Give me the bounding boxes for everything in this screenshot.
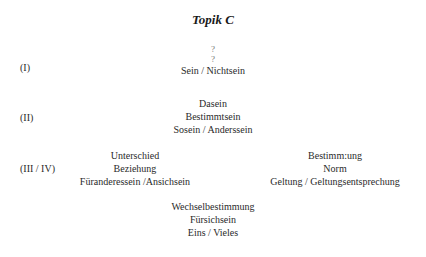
level-3-right-line-2: Norm [250, 162, 420, 175]
level-label-3-4: (III / IV) [20, 163, 55, 175]
level-3-right-block: Bestimm:ung Norm Geltung / Geltungsentsp… [250, 149, 420, 188]
level-4-line-2: Fürsichsein [148, 213, 278, 226]
level-3-right-line-3: Geltung / Geltungsentsprechung [250, 175, 420, 188]
level-3-left-block: Unterschied Beziehung Füranderessein /An… [65, 149, 205, 188]
level-4-line-1: Wechselbestimmung [148, 200, 278, 213]
level-3-left-line-2: Beziehung [65, 162, 205, 175]
level-4-line-3: Eins / Vieles [148, 226, 278, 239]
level-3-right-line-1: Bestimm:ung [250, 149, 420, 162]
level-1-block: ? ? Sein / Nichtsein [163, 44, 263, 77]
level-2-line-1: Dasein [153, 97, 273, 110]
level-1-line-1: ? [163, 44, 263, 54]
level-2-line-3: Sosein / Anderssein [153, 123, 273, 136]
level-4-block: Wechselbestimmung Fürsichsein Eins / Vie… [148, 200, 278, 239]
page-title: Topik C [0, 12, 426, 28]
level-3-left-line-3: Füranderessein /Ansichsein [65, 175, 205, 188]
level-3-left-line-1: Unterschied [65, 149, 205, 162]
level-label-1: (I) [20, 62, 30, 74]
level-label-2: (II) [20, 112, 33, 124]
level-1-line-3: Sein / Nichtsein [163, 64, 263, 77]
level-1-line-2: ? [163, 54, 263, 64]
level-2-block: Dasein Bestimmtsein Sosein / Anderssein [153, 97, 273, 136]
level-2-line-2: Bestimmtsein [153, 110, 273, 123]
